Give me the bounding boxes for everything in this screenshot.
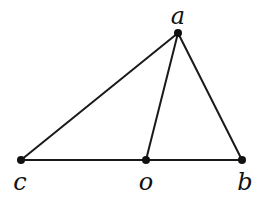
geometry-diagram: a b c o [0,0,275,207]
vertex-c [17,156,25,164]
edge-a-b [178,33,242,160]
label-o: o [139,168,153,196]
label-c: c [13,168,26,196]
vertex-b [238,156,246,164]
label-b: b [237,168,252,196]
edges [21,33,242,160]
label-a: a [171,2,185,30]
vertex-o [142,156,150,164]
edge-c-a [21,33,178,160]
vertex-a [174,29,182,37]
vertices [17,29,246,164]
labels: a b c o [13,2,252,196]
edge-a-o [146,33,178,160]
